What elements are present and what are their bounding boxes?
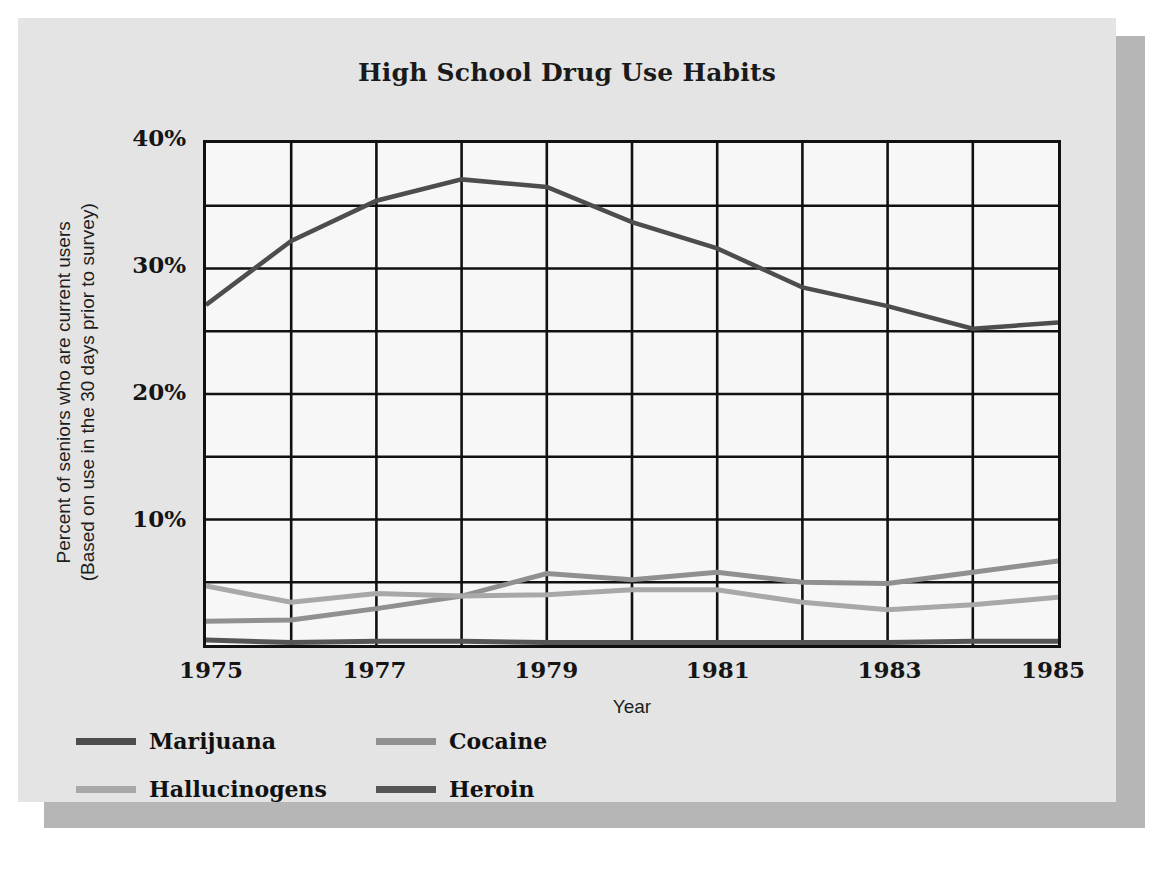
y-tick-label: 40% (116, 124, 186, 151)
legend-label: Cocaine (449, 728, 547, 754)
x-tick-label: 1983 (857, 656, 921, 683)
chart-card: High School Drug Use Habits Percent of s… (18, 18, 1116, 802)
x-axis-tick-labels: 197519771979198119831985 (203, 656, 1061, 690)
x-axis-title: Year (203, 696, 1061, 718)
legend-swatch-icon (376, 738, 436, 745)
x-tick-label: 1977 (343, 656, 407, 683)
legend-swatch-icon (376, 786, 436, 793)
series-line-heroin (206, 640, 1058, 643)
y-axis-title-line-1: Percent of seniors who are current users (52, 182, 76, 602)
y-axis-title: Percent of seniors who are current users… (52, 182, 101, 602)
legend-item-cocaine[interactable]: Cocaine (376, 728, 547, 754)
legend-label: Hallucinogens (149, 776, 327, 802)
y-tick-label: 10% (116, 505, 186, 532)
legend-label: Marijuana (149, 728, 276, 754)
x-tick-label: 1981 (686, 656, 750, 683)
gridlines (206, 143, 1058, 645)
y-axis-title-line-2: (Based on use in the 30 days prior to su… (76, 182, 100, 602)
plot-area (203, 140, 1061, 648)
legend-swatch-icon (76, 738, 136, 745)
y-tick-label: 30% (116, 251, 186, 278)
chart-page: High School Drug Use Habits Percent of s… (0, 0, 1162, 873)
x-tick-label: 1979 (514, 656, 578, 683)
legend-item-marijuana[interactable]: Marijuana (76, 728, 276, 754)
x-tick-label: 1985 (1021, 656, 1085, 683)
x-tick-label: 1975 (179, 656, 243, 683)
legend-item-heroin[interactable]: Heroin (376, 776, 534, 802)
chart-legend: MarijuanaCocaineHallucinogensHeroin (76, 728, 1076, 808)
legend-label: Heroin (449, 776, 534, 802)
chart-svg (206, 143, 1058, 645)
y-axis-tick-labels: 40%30%20%10% (116, 18, 186, 802)
legend-item-hallucinogens[interactable]: Hallucinogens (76, 776, 327, 802)
legend-swatch-icon (76, 786, 136, 793)
y-tick-label: 20% (116, 378, 186, 405)
